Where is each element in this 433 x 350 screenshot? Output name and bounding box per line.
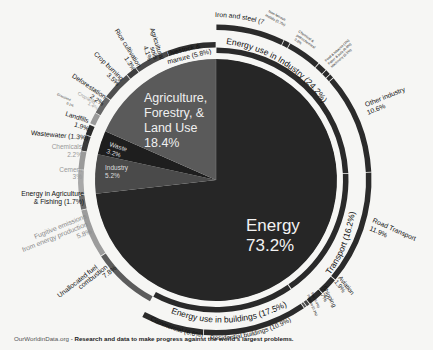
grassland-pct: 0.1% [66,101,74,108]
sector-emissions-sunburst: Energy 73.2% Agriculture, Forestry, & La… [0,0,433,350]
energy-label: Energy [246,216,300,235]
grassland-label: Grassland [56,92,71,102]
afolu-label-2: Forestry, & [144,106,205,120]
industry-label: Industry [105,164,129,172]
cement-label: Cement [59,166,82,173]
chemicals-pct: 2.2% [67,151,82,158]
chemicals-label: Chemicals [52,143,83,150]
afolu-pct: 18.4% [144,136,179,150]
subsector-band-food-tobacco [315,64,325,74]
subsector-band-cropland [90,113,100,125]
cement-pct: 3% [73,173,83,180]
industry-pct: 5.2% [105,172,120,179]
subsector-band-non-ferrous-metals [282,40,290,48]
footer-site: OurWorldinData.org [14,335,69,342]
footer-tagline: Research and data to make progress again… [74,335,293,342]
energy-pct: 73.2% [246,236,294,255]
other-industry-label: Other industry [364,85,407,109]
footer: OurWorldinData.org - Research and data t… [14,335,294,342]
afolu-label-1: Agriculture, [144,91,207,105]
agfish-label-2: & Fishing (1.7%) [34,198,84,206]
iron-steel-label: Iron and steel (7.2%) [0,0,265,25]
afolu-label-3: Land Use [144,121,198,135]
agfish-label-1: Energy in Agriculture [21,190,84,198]
center-pie [92,56,340,304]
wastewater-label: Wastewater (1.3%) [30,129,88,142]
